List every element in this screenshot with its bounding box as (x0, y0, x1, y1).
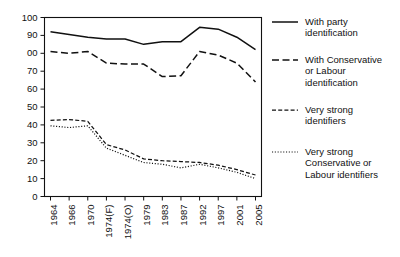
chart-figure: 0102030405060700090100 1964196619701974(… (0, 0, 400, 257)
y-tick-label: 30 (27, 137, 38, 148)
line-chart: 0102030405060700090100 1964196619701974(… (0, 0, 400, 257)
legend-label-2: With Conservative (305, 54, 382, 65)
y-tick-label: 20 (27, 155, 38, 166)
y-tick-label: 50 (27, 101, 38, 112)
chart-legend: With partyidentificationWith Conservativ… (272, 16, 382, 180)
legend-label-4: Conservative or (305, 157, 372, 168)
series-line-1 (51, 27, 256, 49)
x-tick-label: 1974(F) (103, 205, 114, 238)
legend-label-4: Labour identifiers (305, 169, 378, 180)
x-tick-label: 1992 (197, 205, 208, 226)
y-tick-label: 60 (27, 83, 38, 94)
x-tick-label: 1997 (215, 205, 226, 226)
y-tick-label: 00 (27, 47, 38, 58)
x-axis: 1964196619701974(F)1974(O)19791983198719… (48, 197, 264, 240)
y-tick-label: 90 (27, 29, 38, 40)
y-tick-label: 0 (32, 191, 37, 202)
series-line-3 (51, 120, 256, 175)
y-tick-label: 10 (27, 173, 38, 184)
series-line-2 (51, 52, 256, 82)
plot-border (45, 18, 262, 197)
x-tick-label: 1966 (66, 205, 77, 226)
legend-label-3: identifiers (305, 115, 346, 126)
x-tick-label: 1974(O) (122, 205, 133, 240)
legend-label-1: identification (305, 27, 358, 38)
legend-label-2: or Labour (305, 65, 346, 76)
x-tick-label: 1979 (141, 205, 152, 226)
y-tick-label: 70 (27, 65, 38, 76)
axis-frame (45, 18, 262, 197)
legend-label-2: identification (305, 77, 358, 88)
x-tick-label: 1987 (178, 205, 189, 226)
x-tick-label: 2001 (234, 205, 245, 226)
y-tick-label: 40 (27, 119, 38, 130)
x-tick-label: 2005 (253, 205, 264, 226)
legend-label-1: With party (305, 16, 348, 27)
y-tick-label: 100 (22, 12, 38, 23)
series-lines (51, 27, 256, 178)
x-tick-label: 1970 (85, 205, 96, 226)
legend-label-4: Very strong (305, 146, 353, 157)
x-tick-label: 1964 (48, 205, 59, 226)
x-tick-label: 1983 (159, 205, 170, 226)
legend-label-3: Very strong (305, 104, 353, 115)
series-line-4 (51, 126, 256, 179)
y-axis: 0102030405060700090100 (22, 12, 45, 202)
